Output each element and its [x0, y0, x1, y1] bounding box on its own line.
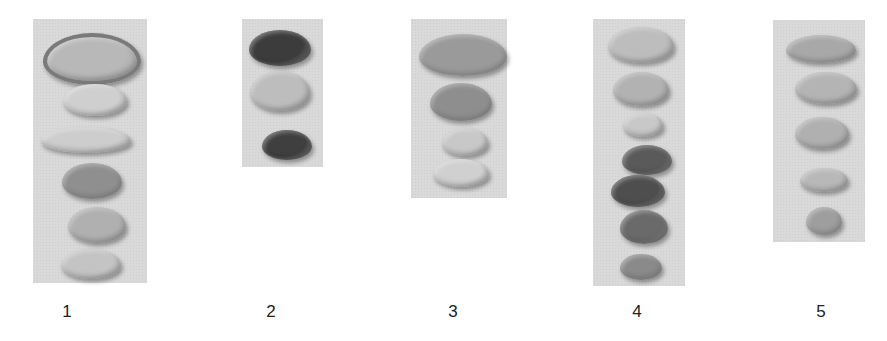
seed — [800, 168, 848, 192]
panel-label-1: 1 — [52, 302, 82, 322]
panel-label-5: 5 — [806, 302, 836, 322]
seed — [433, 159, 489, 187]
seed — [622, 145, 672, 175]
seed — [430, 83, 492, 121]
seed — [249, 30, 311, 66]
seed — [611, 175, 665, 207]
seed — [61, 249, 121, 279]
seed — [41, 127, 131, 153]
seed — [620, 210, 668, 244]
seed — [806, 207, 842, 235]
panel-label-4: 4 — [622, 302, 652, 322]
seed — [613, 72, 669, 106]
seed — [623, 113, 663, 137]
seed — [795, 72, 857, 104]
seed — [786, 35, 856, 63]
seed — [442, 128, 488, 156]
seed — [262, 130, 312, 160]
seed — [63, 84, 127, 116]
seed — [419, 34, 507, 76]
seed — [795, 117, 849, 149]
seed — [620, 254, 662, 280]
panel-label-3: 3 — [438, 302, 468, 322]
seed — [250, 71, 310, 111]
seed — [608, 27, 674, 63]
seed — [43, 33, 141, 85]
seed — [62, 163, 122, 199]
seed — [68, 207, 126, 243]
panel-label-2: 2 — [256, 302, 286, 322]
